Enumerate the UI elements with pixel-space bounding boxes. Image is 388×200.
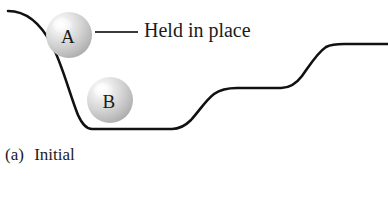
ball-a-label: A <box>61 27 75 46</box>
caption-part-label: (a) <box>5 145 24 164</box>
ball-a: A <box>46 12 92 58</box>
caption-part-text: Initial <box>34 145 75 164</box>
ball-b-label: B <box>103 92 116 111</box>
ball-b: B <box>87 77 133 123</box>
physics-figure-initial: B A Held in place (a) Initial <box>0 0 388 200</box>
annotation-label-held-in-place: Held in place <box>144 20 251 40</box>
figure-caption: (a) Initial <box>5 146 75 163</box>
annotation-leader-line <box>95 31 138 33</box>
